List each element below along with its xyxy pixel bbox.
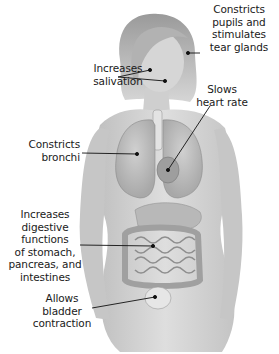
label-bronchi: Constricts bronchi: [10, 138, 80, 163]
label-salivation: Increases salivation: [78, 62, 158, 87]
label-eyes: Constricts pupils and stimulates tear gl…: [200, 3, 278, 53]
label-digestive: Increases digestive functions of stomach…: [5, 208, 85, 284]
label-bladder: Allows bladder contraction: [22, 292, 102, 330]
label-heart: Slows heart rate: [185, 83, 259, 108]
